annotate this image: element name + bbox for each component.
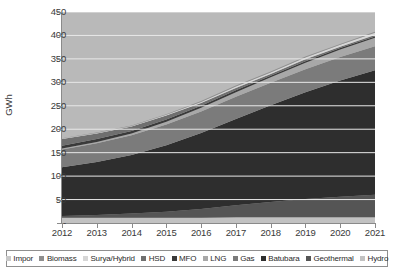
y-axis-tick-mark (57, 129, 62, 130)
legend-swatch-icon (203, 256, 208, 261)
legend-label: Batubara (268, 255, 299, 263)
legend-item[interactable]: Gas (233, 255, 255, 263)
legend-item[interactable]: Impor (6, 255, 33, 263)
x-axis-tick-mark (62, 223, 63, 228)
legend-swatch-icon (233, 256, 238, 261)
legend-swatch-icon (6, 256, 11, 261)
legend-item[interactable]: Geothermal (306, 255, 354, 263)
legend-label: Gas (240, 255, 254, 263)
legend-item[interactable]: HSD (141, 255, 165, 263)
legend-item[interactable]: Hydro (360, 255, 388, 263)
legend-swatch-icon (172, 256, 177, 261)
legend-label: Biomass (47, 255, 77, 263)
legend-label: MFO (179, 255, 196, 263)
legend-label: Impor (13, 255, 33, 263)
y-axis-tick-mark (57, 106, 62, 107)
x-axis-tick-mark (340, 223, 341, 228)
x-axis-tick-mark (375, 223, 376, 228)
area-series-group (62, 12, 375, 223)
legend-label: HSD (149, 255, 165, 263)
chart-screenshot: GWh 45040035030025020015010050- 20122013… (0, 0, 396, 271)
legend-item[interactable]: LNG (203, 255, 227, 263)
legend-swatch-icon (360, 256, 365, 261)
y-axis-tick-mark (57, 35, 62, 36)
legend-item[interactable]: Biomass (39, 255, 76, 263)
y-axis-tick-mark (57, 12, 62, 13)
x-axis-tick-mark (236, 223, 237, 228)
y-axis-tick-mark (57, 82, 62, 83)
legend-item[interactable]: Surya/Hybrid (83, 255, 135, 263)
y-axis-tick-mark (57, 153, 62, 154)
y-axis-tick-mark (57, 59, 62, 60)
legend-label: Surya/Hybrid (90, 255, 134, 263)
legend-swatch-icon (261, 256, 266, 261)
legend-swatch-icon (306, 256, 311, 261)
chart-legend: ImporBiomassSurya/HybridHSDMFOLNGGasBatu… (6, 250, 388, 267)
legend-swatch-icon (39, 256, 44, 261)
legend-label: LNG (210, 255, 226, 263)
legend-swatch-icon (83, 256, 88, 261)
x-axis-tick-mark (271, 223, 272, 228)
y-axis-tick-mark (57, 200, 62, 201)
y-axis-title: GWh (4, 83, 14, 127)
x-axis-line (61, 223, 376, 224)
x-axis-tick-mark (166, 223, 167, 228)
legend-label: Geothermal (313, 255, 353, 263)
legend-swatch-icon (141, 256, 146, 261)
x-axis-tick-mark (201, 223, 202, 228)
y-axis-line (61, 12, 62, 223)
x-axis-tick-label: 2021 (355, 228, 395, 238)
y-axis-tick-mark (57, 176, 62, 177)
legend-label: Hydro (368, 255, 389, 263)
legend-item[interactable]: MFO (172, 255, 197, 263)
plot-area (62, 12, 375, 223)
x-axis-tick-mark (97, 223, 98, 228)
stacked-area-chart: GWh 45040035030025020015010050- 20122013… (0, 0, 396, 247)
x-axis-tick-mark (305, 223, 306, 228)
x-axis-tick-mark (132, 223, 133, 228)
legend-item[interactable]: Batubara (261, 255, 300, 263)
